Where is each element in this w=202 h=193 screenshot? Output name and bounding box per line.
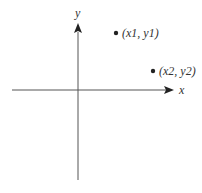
y-axis-arrow-icon	[74, 23, 82, 33]
point-1-label: (x1, y1)	[122, 26, 159, 40]
point-1-marker	[114, 31, 118, 35]
y-axis-label: y	[74, 6, 81, 20]
point-2-marker	[151, 69, 155, 73]
point-2-label: (x2, y2)	[159, 64, 196, 78]
x-axis-label: x	[178, 83, 185, 97]
coordinate-diagram: x y (x1, y1) (x2, y2)	[0, 0, 202, 193]
